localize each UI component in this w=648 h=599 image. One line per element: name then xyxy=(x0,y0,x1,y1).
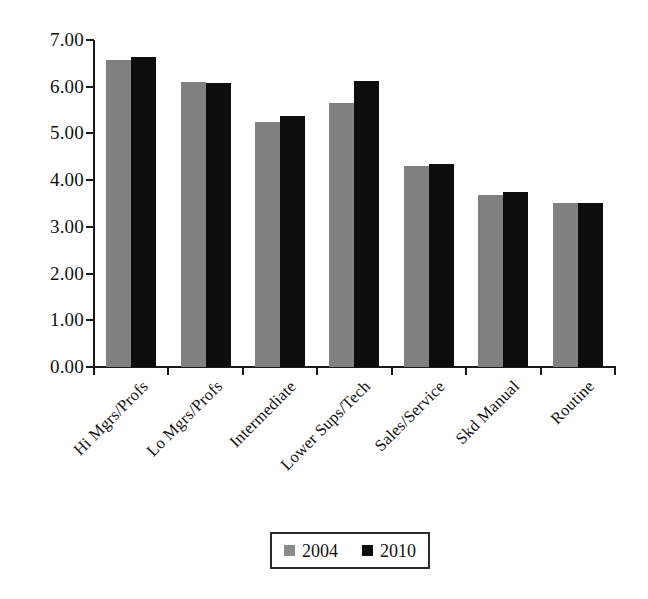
bar-group xyxy=(243,40,317,367)
bar-2004 xyxy=(553,203,578,367)
y-tick-label: 6.00 xyxy=(12,77,84,96)
y-tick-label-wrap: 5.00 xyxy=(0,123,84,143)
black-swatch-icon xyxy=(362,545,373,556)
y-tick-label-wrap: 0.00 xyxy=(0,357,84,377)
bar-group xyxy=(317,40,391,367)
category-label: Routine xyxy=(548,378,598,428)
legend: 20042010 xyxy=(270,532,430,569)
legend-label: 2010 xyxy=(380,542,416,560)
bar-2004 xyxy=(106,60,131,367)
y-tick-label-wrap: 6.00 xyxy=(0,77,84,97)
gray-swatch-icon xyxy=(284,545,295,556)
bar-2010 xyxy=(429,164,454,367)
x-tick-mark xyxy=(167,367,169,375)
bar-2004 xyxy=(181,82,206,367)
y-tick-label: 1.00 xyxy=(12,310,84,329)
bar-group xyxy=(94,40,168,367)
bar-2010 xyxy=(354,81,379,367)
bar-chart: 0.001.002.003.004.005.006.007.00 Hi Mgrs… xyxy=(0,0,648,599)
y-tick-label-wrap: 1.00 xyxy=(0,310,84,330)
x-tick-mark xyxy=(242,367,244,375)
category-label: Sales/Service xyxy=(372,378,448,454)
bar-2004 xyxy=(329,103,354,367)
y-tick-label: 7.00 xyxy=(12,30,84,49)
bar-2004 xyxy=(255,122,280,367)
legend-item: 2010 xyxy=(362,542,416,560)
y-tick-label-wrap: 2.00 xyxy=(0,264,84,284)
category-label: Hi Mgrs/Profs xyxy=(71,378,152,459)
x-tick-mark xyxy=(391,367,393,375)
y-tick-label-wrap: 7.00 xyxy=(0,30,84,50)
bar-2004 xyxy=(404,166,429,367)
category-label: Intermediate xyxy=(227,378,299,450)
y-tick-label: 2.00 xyxy=(12,264,84,283)
bar-2010 xyxy=(206,83,231,367)
category-label: Skd Manual xyxy=(453,378,523,448)
y-tick-label-wrap: 3.00 xyxy=(0,217,84,237)
x-tick-mark xyxy=(540,367,542,375)
category-label: Lo Mgrs/Profs xyxy=(144,378,226,460)
y-tick-label: 5.00 xyxy=(12,123,84,142)
bar-2004 xyxy=(478,195,503,367)
y-tick-label-wrap: 4.00 xyxy=(0,170,84,190)
bar-2010 xyxy=(503,192,528,367)
x-tick-mark xyxy=(316,367,318,375)
legend-label: 2004 xyxy=(302,542,338,560)
bar-2010 xyxy=(578,203,603,367)
plot-area xyxy=(94,40,615,367)
y-tick-label: 4.00 xyxy=(12,170,84,189)
y-tick-label: 0.00 xyxy=(12,357,84,376)
bar-group xyxy=(392,40,466,367)
bar-2010 xyxy=(280,116,305,367)
x-tick-mark xyxy=(93,367,95,375)
bar-group xyxy=(168,40,242,367)
y-tick-label: 3.00 xyxy=(12,217,84,236)
x-tick-mark xyxy=(614,367,616,375)
bar-group xyxy=(466,40,540,367)
bar-group xyxy=(541,40,615,367)
bar-2010 xyxy=(131,57,156,367)
x-tick-mark xyxy=(465,367,467,375)
legend-item: 2004 xyxy=(284,542,338,560)
